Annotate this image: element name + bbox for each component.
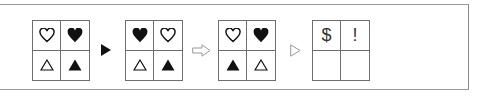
- triangle-outline-icon: [40, 59, 54, 71]
- heart-filled-icon: [253, 28, 269, 43]
- grid-2-cell-1: [126, 21, 154, 51]
- grid-1-cell-2: [61, 21, 89, 51]
- grid-4-cell-4: [341, 51, 369, 81]
- filled-triangle-arrow-icon: [101, 44, 111, 56]
- grid-1: [32, 20, 90, 81]
- grid-4-answer: $ !: [312, 20, 370, 81]
- grid-2: [125, 20, 183, 81]
- grid-3-cell-4: [247, 51, 275, 81]
- grid-1-cell-4: [61, 51, 89, 81]
- grid-4-cell-3: [313, 51, 341, 81]
- triangle-filled-icon: [226, 59, 240, 71]
- triangle-outline-icon: [254, 59, 268, 71]
- exclamation-symbol: !: [352, 26, 357, 44]
- triangle-filled-icon: [68, 59, 82, 71]
- grid-2-cell-4: [154, 51, 182, 81]
- heart-filled-icon: [67, 28, 83, 43]
- grid-2-cell-2: [154, 21, 182, 51]
- hollow-block-arrow-icon: [192, 44, 211, 57]
- grid-4-cell-2: !: [341, 21, 369, 51]
- grid-3-cell-2: [247, 21, 275, 51]
- heart-filled-icon: [132, 28, 148, 43]
- grid-3-cell-1: [219, 21, 247, 51]
- hollow-triangle-arrow-icon: [290, 44, 301, 57]
- grid-2-cell-3: [126, 51, 154, 81]
- dollar-symbol: $: [321, 26, 331, 44]
- grid-1-cell-3: [33, 51, 61, 81]
- grid-3-cell-3: [219, 51, 247, 81]
- grid-1-cell-1: [33, 21, 61, 51]
- heart-outline-icon: [39, 28, 55, 43]
- heart-outline-icon: [160, 28, 176, 43]
- grid-4-cell-1: $: [313, 21, 341, 51]
- triangle-filled-icon: [161, 59, 175, 71]
- triangle-outline-icon: [133, 59, 147, 71]
- heart-outline-icon: [225, 28, 241, 43]
- grid-3: [218, 20, 276, 81]
